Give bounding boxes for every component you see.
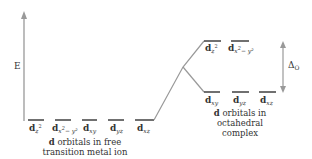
orbital-label-dxy: dxy: [83, 124, 96, 134]
octahedral-caption: d orbitals in octahedral complex: [200, 108, 280, 138]
delta-o-label: ΔO: [288, 61, 299, 71]
free-ion-caption: d orbitals in free transition metal ion: [30, 137, 140, 157]
orbital-label-dyz: dyz: [110, 124, 123, 134]
t2g-label-dxy: dxy: [205, 96, 218, 106]
eg-label-dz2: dz2: [205, 44, 218, 54]
energy-axis-label: E: [14, 61, 21, 71]
orbital-label-dx2y2: dx2− y²: [52, 124, 78, 134]
energy-axis-arrow: [21, 11, 27, 121]
t2g-label-dyz: dyz: [233, 96, 246, 106]
splitting-connectors: [154, 41, 204, 120]
delta-o-arrow: [280, 41, 286, 93]
orbital-label-dz2: dz2: [29, 124, 42, 134]
t2g-label-dxz: dxz: [260, 96, 273, 106]
orbital-label-dxz: dxz: [137, 124, 150, 134]
eg-label-dx2y2: dx2− y²: [228, 44, 254, 54]
